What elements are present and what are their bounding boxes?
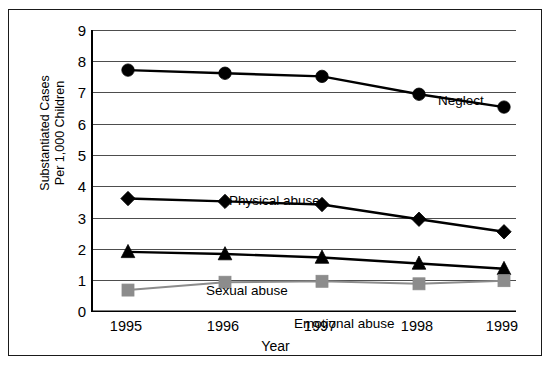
data-point-neglect-1998 bbox=[413, 88, 425, 100]
plot-area: Neglect Physical abuse Sexual abuse Emot… bbox=[91, 30, 514, 312]
y-tick-1: 1 bbox=[64, 273, 86, 288]
gridlines bbox=[93, 31, 516, 281]
plot-svg bbox=[93, 30, 516, 312]
data-point-neglect-1996 bbox=[219, 67, 231, 79]
data-point-emotional-abuse-1997 bbox=[316, 275, 328, 287]
data-point-emotional-abuse-1999 bbox=[498, 275, 510, 287]
series-label-physical-abuse: Physical abuse bbox=[229, 193, 320, 209]
x-tick-label-1997: 1997 bbox=[290, 318, 350, 335]
series-line-sexual-abuse bbox=[128, 252, 504, 269]
data-point-emotional-abuse-1995 bbox=[122, 284, 134, 296]
x-axis-tick-labels: 1995 1996 1997 1998 1999 bbox=[91, 318, 514, 338]
y-axis-title-line1: Substantiated Cases bbox=[38, 75, 52, 190]
x-axis-title: Year bbox=[0, 338, 551, 354]
data-point-physical-abuse-1998 bbox=[412, 212, 426, 226]
y-tick-0: 0 bbox=[64, 304, 86, 319]
x-tick-label-1996: 1996 bbox=[193, 318, 253, 335]
chart-figure: 9 8 7 6 5 4 3 2 1 0 Substantiated Cases … bbox=[0, 0, 551, 366]
y-axis-title-line2: Per 1,000 Children bbox=[53, 33, 68, 233]
x-tick-label-1999: 1999 bbox=[472, 318, 532, 335]
x-tick-label-1995: 1995 bbox=[96, 318, 156, 335]
data-point-neglect-1999 bbox=[498, 101, 510, 113]
data-point-physical-abuse-1999 bbox=[497, 225, 511, 239]
x-tick-label-1998: 1998 bbox=[387, 318, 447, 335]
series-label-neglect: Neglect bbox=[438, 93, 484, 109]
series-label-sexual-abuse: Sexual abuse bbox=[206, 283, 288, 299]
y-tick-2: 2 bbox=[64, 242, 86, 257]
y-axis-title: Substantiated Cases Per 1,000 Children bbox=[38, 33, 68, 233]
data-point-physical-abuse-1995 bbox=[121, 191, 135, 205]
data-point-emotional-abuse-1998 bbox=[413, 278, 425, 290]
data-point-neglect-1997 bbox=[316, 70, 328, 82]
data-point-neglect-1995 bbox=[122, 64, 134, 76]
